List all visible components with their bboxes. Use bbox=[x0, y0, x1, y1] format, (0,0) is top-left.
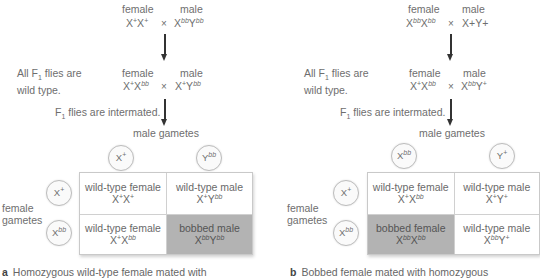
cross-symbol: × bbox=[161, 18, 167, 30]
f1-female-genotype: X+Xbb bbox=[410, 80, 436, 92]
cross-symbol: × bbox=[161, 81, 167, 93]
punnett-cell: wild-type maleXbbY+ bbox=[454, 214, 540, 255]
p-male-label: male bbox=[180, 3, 203, 15]
cross-symbol: × bbox=[448, 81, 454, 93]
arrow-down-icon bbox=[450, 99, 452, 121]
punnett-cell: wild-type femaleX+X+ bbox=[80, 173, 166, 214]
female-gametes-label: femalegametes bbox=[2, 202, 42, 226]
gamete-circle-male-2: Ybb bbox=[196, 145, 222, 171]
intermate-note: F1 flies are intermated. bbox=[340, 106, 445, 123]
intermate-note: F1 flies are intermated. bbox=[55, 106, 160, 123]
cross-symbol: × bbox=[448, 18, 454, 30]
caption-a: aHomozygous wild-type female mated with bbox=[2, 266, 207, 278]
punnett-cell: wild-type femaleX+Xbb bbox=[368, 173, 454, 214]
arrow-down-icon bbox=[164, 99, 166, 121]
gamete-circle-female-2: Xbb bbox=[46, 220, 72, 246]
p-female-genotype: XbbXbb bbox=[406, 17, 436, 29]
punnett-square: wild-type femaleX+Xbb wild-type maleX+Y+… bbox=[367, 172, 540, 255]
gamete-circle-male-2: Y+ bbox=[489, 143, 515, 169]
f1-note: All F1 flies arewild type. bbox=[17, 67, 82, 96]
punnett-square: wild-type femaleX+X+ wild-type maleX+Ybb… bbox=[79, 172, 253, 255]
p-female-label: female bbox=[122, 3, 154, 15]
gamete-circle-female-1: X+ bbox=[333, 180, 359, 206]
punnett-cell-shaded: bobbed femaleXbbXbb bbox=[368, 214, 454, 255]
punnett-cell-shaded: bobbed maleXbbYbb bbox=[166, 214, 252, 255]
male-gametes-label: male gametes bbox=[133, 127, 199, 139]
arrow-down-icon bbox=[164, 34, 166, 56]
arrow-down-icon bbox=[450, 34, 452, 56]
f1-female-genotype: X+Xbb bbox=[123, 80, 149, 92]
p-male-genotype: X+Y+ bbox=[462, 17, 488, 29]
male-gametes-label: male gametes bbox=[419, 127, 485, 139]
caption-b: bBobbed female mated with homozygous bbox=[290, 266, 488, 278]
gamete-circle-male-1: Xbb bbox=[391, 143, 417, 169]
f1-male-genotype: XbbY+ bbox=[461, 80, 487, 92]
gamete-circle-female-2: Xbb bbox=[333, 220, 359, 246]
punnett-cell: wild-type maleX+Ybb bbox=[166, 173, 252, 214]
p-female-genotype: X+X+ bbox=[126, 17, 148, 29]
punnett-cell: wild-type maleX+Y+ bbox=[454, 173, 540, 214]
f1-female-label: female bbox=[409, 67, 441, 79]
p-female-label: female bbox=[408, 3, 440, 15]
punnett-cell: wild-type femaleX+Xbb bbox=[80, 214, 166, 255]
f1-female-label: female bbox=[122, 67, 154, 79]
f1-male-genotype: X+Ybb bbox=[175, 80, 201, 92]
p-male-genotype: XbbYbb bbox=[174, 17, 204, 29]
f1-note: All F1 flies arewild type. bbox=[304, 67, 369, 96]
f1-male-label: male bbox=[463, 67, 486, 79]
p-male-label: male bbox=[462, 3, 485, 15]
female-gametes-label: femalegametes bbox=[287, 202, 327, 226]
gamete-circle-male-1: X+ bbox=[108, 145, 134, 171]
gamete-circle-female-1: X+ bbox=[46, 180, 72, 206]
f1-male-label: male bbox=[180, 67, 203, 79]
